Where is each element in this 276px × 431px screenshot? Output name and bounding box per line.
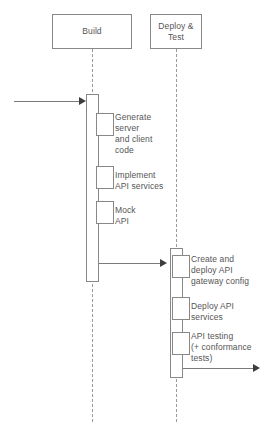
outgoing-end-arrow-head — [253, 364, 260, 372]
participant-build-label: Build — [82, 26, 101, 37]
label-mock-api: Mock API — [115, 205, 136, 227]
incoming-start-arrow-head — [79, 97, 86, 105]
incoming-start-arrow-line — [14, 101, 80, 102]
participant-build[interactable]: Build — [52, 14, 132, 49]
execution-create-deploy-gateway[interactable] — [172, 255, 190, 278]
participant-deploy-test-label: Deploy & Test — [158, 21, 193, 43]
execution-deploy-api-services[interactable] — [172, 297, 190, 320]
build-to-deploy-arrow-head — [160, 259, 167, 267]
label-api-testing: API testing (+ conformance tests) — [191, 331, 252, 364]
label-implement-api-services: Implement API services — [115, 170, 163, 192]
execution-generate-code[interactable] — [96, 113, 114, 136]
participant-deploy-test[interactable]: Deploy & Test — [150, 14, 202, 49]
execution-implement-api-services[interactable] — [96, 166, 114, 189]
outgoing-end-arrow-line — [183, 368, 254, 369]
execution-api-testing[interactable] — [172, 332, 190, 355]
build-to-deploy-arrow-line — [99, 263, 161, 264]
sequence-diagram-canvas: Build Deploy & Test Generate server and … — [0, 0, 276, 431]
execution-mock-api[interactable] — [96, 201, 114, 224]
label-create-deploy-gateway: Create and deploy API gateway config — [191, 254, 249, 287]
label-deploy-api-services: Deploy API services — [191, 301, 234, 323]
label-generate-code: Generate server and client code — [115, 112, 152, 156]
